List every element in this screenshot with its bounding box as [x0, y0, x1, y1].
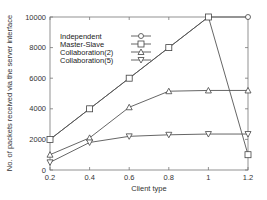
data-point-master-slave [245, 152, 251, 158]
data-point-master-slave [166, 45, 172, 51]
data-point-independent [246, 15, 251, 20]
x-tick-label: 1.2 [243, 173, 253, 182]
line-chart: 0.20.40.60.811.20200040006000800010000 I… [0, 0, 267, 200]
y-tick-label: 4000 [29, 104, 46, 113]
y-tick-label: 10000 [25, 13, 46, 22]
data-point-collaboration-2 [47, 152, 53, 158]
x-tick-label: 0.2 [45, 173, 55, 182]
x-tick-label: 0.4 [84, 173, 94, 182]
y-tick-label: 8000 [29, 43, 46, 52]
x-tick-label: 0.6 [124, 173, 134, 182]
x-axis-label: Client type [131, 184, 166, 193]
y-tick-label: 6000 [29, 74, 46, 83]
data-point-collaboration-5 [87, 140, 93, 146]
data-point-master-slave [47, 136, 53, 142]
series-collaboration-5 [47, 132, 251, 166]
y-axis-label: No. of packets received via the server i… [5, 15, 14, 171]
legend-label: Collaboration(5) [60, 56, 114, 65]
data-point-master-slave [87, 106, 93, 112]
data-point-master-slave [205, 14, 211, 20]
series-collaboration-2 [47, 87, 251, 157]
data-point-collaboration-2 [126, 104, 132, 110]
x-tick-label: 1 [206, 173, 210, 182]
legend-marker-square-icon [138, 41, 144, 47]
x-tick-label: 0.8 [164, 173, 174, 182]
data-point-master-slave [126, 75, 132, 81]
series-line-collaboration-2 [50, 90, 248, 154]
y-tick-label: 2000 [29, 135, 46, 144]
y-tick-label: 0 [42, 166, 46, 175]
legend: IndependentMaster-SlaveCollaboration(2)C… [60, 32, 151, 65]
legend-marker-circle-icon [139, 34, 144, 39]
series-line-collaboration-5 [50, 134, 248, 162]
data-point-collaboration-5 [47, 160, 53, 166]
